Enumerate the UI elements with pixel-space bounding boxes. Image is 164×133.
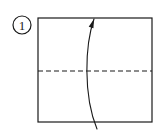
- step-number-label: 1: [19, 18, 26, 33]
- origami-step-diagram: 1: [0, 0, 164, 133]
- paper-square-outline: [38, 18, 152, 122]
- diagram-canvas: 1: [0, 0, 164, 133]
